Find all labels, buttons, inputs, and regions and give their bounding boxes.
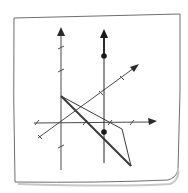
point-upper <box>101 53 107 59</box>
coordinate-sketch <box>0 0 188 193</box>
point-lower <box>101 129 107 135</box>
paper-sheet <box>14 14 181 186</box>
